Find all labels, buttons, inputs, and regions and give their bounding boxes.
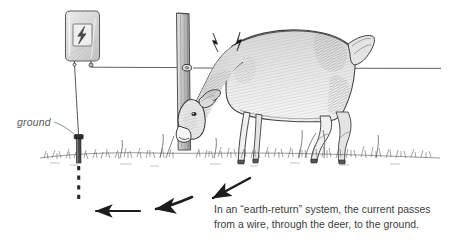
ground-wire bbox=[75, 66, 79, 136]
energizer-unit bbox=[66, 11, 100, 67]
deer-front-leg-far bbox=[253, 114, 262, 162]
deer-hind-leg-near bbox=[311, 116, 332, 162]
ground-rod-clamp bbox=[74, 135, 83, 140]
deer-front-leg-near bbox=[238, 112, 250, 163]
caption-line-2: from a wire, through the deer, to the gr… bbox=[214, 218, 464, 233]
current-arrow-diagonal bbox=[213, 178, 250, 198]
ground-rod bbox=[74, 135, 83, 164]
deer-hind-leg-far bbox=[336, 112, 351, 163]
diagram-canvas: ground In an “earth-return” system, the … bbox=[0, 0, 467, 252]
current-arrow-middle bbox=[156, 197, 192, 209]
caption-block: In an “earth-return” system, the current… bbox=[214, 203, 464, 232]
spark-bolt-left bbox=[212, 33, 218, 52]
deer-hoof bbox=[238, 160, 244, 164]
ground-label: ground bbox=[17, 116, 51, 128]
deer-tail bbox=[348, 35, 374, 65]
caption-line-1: In an “earth-return” system, the current… bbox=[214, 203, 464, 218]
ground-rod-shaft bbox=[76, 137, 81, 163]
ground-label-leader bbox=[54, 122, 75, 135]
deer bbox=[176, 30, 374, 164]
